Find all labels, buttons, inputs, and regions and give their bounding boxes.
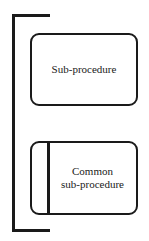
- sub-procedure-label: Sub-procedure: [52, 63, 117, 76]
- common-sub-procedure-label-line-2: sub-procedure: [61, 178, 124, 191]
- common-sub-procedure-label: Common sub-procedure: [49, 143, 136, 213]
- bracket-top-line: [12, 14, 50, 17]
- bracket-vertical-line: [12, 14, 15, 232]
- bracket-bottom-line: [12, 229, 50, 232]
- common-sub-procedure-box: Common sub-procedure: [30, 141, 138, 215]
- sub-procedure-box: Sub-procedure: [30, 33, 138, 106]
- common-sub-procedure-label-line-1: Common: [72, 165, 113, 178]
